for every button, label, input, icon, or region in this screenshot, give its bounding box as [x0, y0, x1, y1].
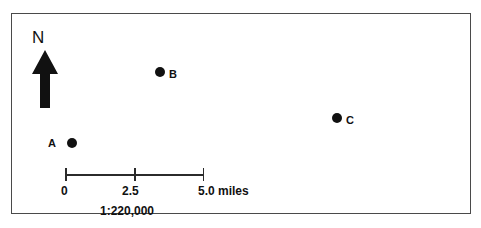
scale-tick-middle: [134, 168, 136, 181]
scale-tick-end: [203, 168, 205, 181]
map-figure: N A B C 0 2.5 5.0 miles 1:220,000: [0, 0, 481, 228]
north-arrow-group: N: [30, 28, 64, 108]
map-point-a-label: A: [48, 138, 56, 149]
north-direction-label: N: [32, 28, 44, 48]
map-frame-border: N A B C 0 2.5 5.0 miles 1:220,000: [11, 13, 471, 214]
map-point-c: [332, 113, 342, 123]
map-point-a: [67, 138, 77, 148]
scale-tick-start: [65, 168, 67, 181]
map-point-c-label: C: [346, 115, 354, 126]
scale-ratio-label: 1:220,000: [100, 204, 154, 218]
scale-label-middle: 2.5: [122, 184, 139, 198]
north-arrow-icon: [30, 50, 60, 108]
scale-bar: [65, 168, 204, 182]
map-point-b-label: B: [169, 69, 177, 80]
scale-label-start: 0: [61, 184, 68, 198]
map-point-b: [155, 67, 165, 77]
scale-label-end: 5.0 miles: [198, 184, 249, 198]
